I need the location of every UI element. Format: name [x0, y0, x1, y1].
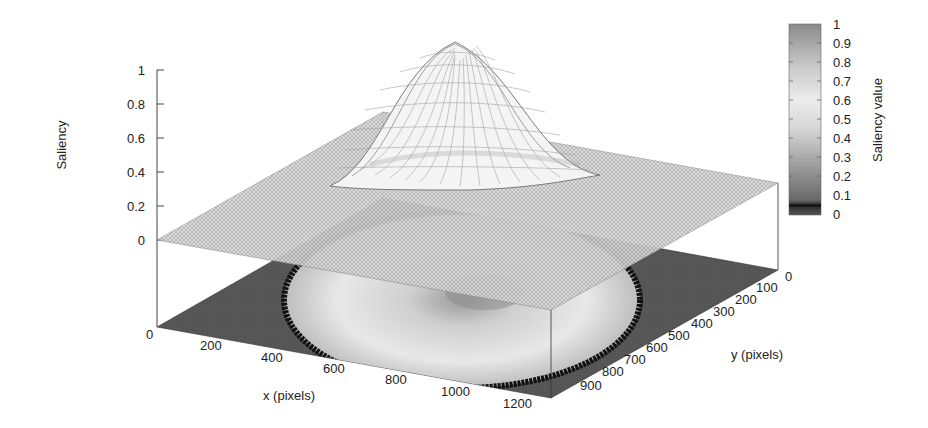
z-tick-labels: 1 0.8 0.6 0.4 0.2 0 — [127, 63, 145, 248]
svg-text:0: 0 — [146, 327, 153, 342]
svg-text:800: 800 — [602, 364, 624, 379]
svg-text:600: 600 — [323, 361, 345, 376]
surface-peak — [330, 42, 600, 190]
svg-text:100: 100 — [756, 280, 778, 295]
z-axis-title: Saliency — [54, 120, 69, 170]
svg-text:0.2: 0.2 — [127, 199, 145, 214]
svg-text:300: 300 — [713, 304, 735, 319]
svg-text:200: 200 — [735, 292, 757, 307]
svg-text:400: 400 — [261, 350, 283, 365]
svg-text:0: 0 — [138, 233, 145, 248]
svg-text:900: 900 — [580, 378, 602, 393]
colorbar-tick-labels: 1 0.9 0.8 0.7 0.6 0.5 0.4 0.3 0.2 0.1 0 — [833, 17, 851, 222]
svg-text:0: 0 — [785, 269, 792, 284]
svg-text:0: 0 — [833, 207, 840, 222]
svg-text:800: 800 — [385, 372, 407, 387]
z-axis — [157, 70, 164, 327]
saliency-3d-plot: 1 0.8 0.6 0.4 0.2 0 Saliency 0 200 400 6… — [0, 0, 928, 428]
svg-text:1: 1 — [833, 17, 840, 32]
svg-text:0.5: 0.5 — [833, 112, 851, 127]
svg-text:0.8: 0.8 — [127, 97, 145, 112]
svg-text:0.4: 0.4 — [127, 165, 145, 180]
colorbar-title: Saliency value — [870, 78, 885, 162]
svg-text:0.6: 0.6 — [127, 131, 145, 146]
svg-text:0.1: 0.1 — [833, 188, 851, 203]
svg-text:0.8: 0.8 — [833, 55, 851, 70]
svg-text:500: 500 — [668, 328, 690, 343]
svg-text:0.7: 0.7 — [833, 74, 851, 89]
svg-text:1200: 1200 — [503, 396, 532, 411]
svg-text:600: 600 — [646, 340, 668, 355]
svg-text:0.4: 0.4 — [833, 131, 851, 146]
colorbar — [789, 24, 821, 215]
svg-text:1: 1 — [138, 63, 145, 78]
x-axis-title: x (pixels) — [263, 388, 315, 403]
svg-text:0.2: 0.2 — [833, 169, 851, 184]
svg-text:1000: 1000 — [441, 384, 470, 399]
svg-text:400: 400 — [691, 316, 713, 331]
svg-text:0.3: 0.3 — [833, 150, 851, 165]
svg-text:200: 200 — [200, 338, 222, 353]
y-axis-title: y (pixels) — [731, 347, 783, 362]
svg-text:0.6: 0.6 — [833, 93, 851, 108]
svg-text:0.9: 0.9 — [833, 36, 851, 51]
svg-text:700: 700 — [624, 352, 646, 367]
